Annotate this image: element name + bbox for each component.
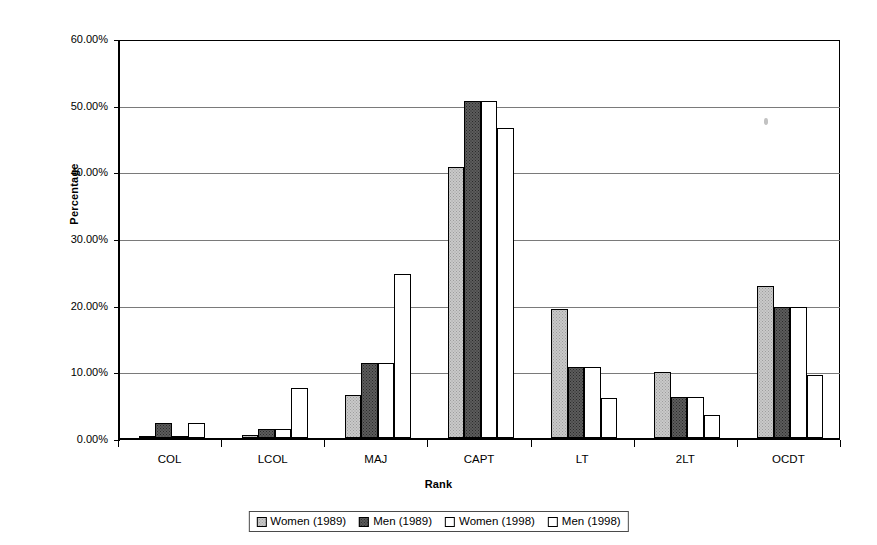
- bar: [551, 309, 568, 438]
- bar: [464, 101, 481, 438]
- legend-swatch-icon: [445, 517, 455, 527]
- legend-label: Men (1989): [373, 515, 432, 528]
- legend-swatch-icon: [548, 517, 558, 527]
- x-tick-mark: [221, 440, 222, 447]
- bar-group: [636, 40, 739, 438]
- x-tick-mark: [737, 440, 738, 447]
- bar: [188, 423, 205, 438]
- bar: [654, 372, 671, 438]
- legend-item[interactable]: Women (1989): [256, 515, 346, 528]
- x-tick-mark: [531, 440, 532, 447]
- bar: [258, 429, 275, 438]
- y-tick-label: 10.00%: [44, 367, 108, 378]
- legend-swatch-icon: [256, 517, 266, 527]
- bar: [172, 436, 189, 438]
- bar: [807, 375, 824, 438]
- x-tick-mark: [118, 440, 119, 447]
- x-tick-mark: [840, 440, 841, 447]
- bar-group: [533, 40, 636, 438]
- bar: [242, 435, 259, 438]
- bar: [704, 415, 721, 438]
- x-tick-label: OCDT: [737, 453, 840, 465]
- bar-group-bars: [429, 40, 532, 438]
- x-tick-mark: [427, 440, 428, 447]
- bar: [448, 167, 465, 438]
- bar: [497, 128, 514, 438]
- bar: [378, 363, 395, 438]
- chart-legend: Women (1989)Men (1989)Women (1998)Men (1…: [248, 511, 628, 532]
- bar-group-bars: [739, 40, 842, 438]
- bar: [291, 388, 308, 438]
- bar: [155, 423, 172, 438]
- legend-item[interactable]: Men (1998): [548, 515, 621, 528]
- bar: [584, 367, 601, 438]
- legend-label: Women (1989): [270, 515, 346, 528]
- bar-group-bars: [223, 40, 326, 438]
- x-tick-mark: [324, 440, 325, 447]
- x-tick-label: CAPT: [427, 453, 530, 465]
- bar-group-bars: [533, 40, 636, 438]
- bar: [774, 307, 791, 438]
- bar: [790, 307, 807, 438]
- bar: [275, 429, 292, 438]
- y-tick-label: 0.00%: [44, 434, 108, 445]
- bar-group-bars: [326, 40, 429, 438]
- bar-group: [739, 40, 842, 438]
- y-tick-label: 30.00%: [44, 234, 108, 245]
- x-tick-label: LT: [531, 453, 634, 465]
- x-tick-label: LCOL: [221, 453, 324, 465]
- bar: [687, 397, 704, 438]
- y-tick-mark: [114, 440, 120, 441]
- bar-group: [326, 40, 429, 438]
- bar-group-bars: [636, 40, 739, 438]
- bar: [481, 101, 498, 438]
- bar: [394, 274, 411, 438]
- bar: [568, 367, 585, 438]
- legend-label: Women (1998): [459, 515, 535, 528]
- x-tick-label: MAJ: [324, 453, 427, 465]
- bar: [139, 436, 156, 438]
- bar-group: [223, 40, 326, 438]
- bar-group-bars: [120, 40, 223, 438]
- bar: [361, 363, 378, 438]
- legend-item[interactable]: Women (1998): [445, 515, 535, 528]
- bar-group: [429, 40, 532, 438]
- bar-chart: Percentage 0.00%10.00%20.00%30.00%40.00%…: [0, 0, 877, 545]
- bar: [345, 395, 362, 438]
- bar-group: [120, 40, 223, 438]
- y-tick-label: 40.00%: [44, 167, 108, 178]
- x-tick-mark: [634, 440, 635, 447]
- bar: [601, 398, 618, 438]
- bar: [757, 286, 774, 438]
- legend-item[interactable]: Men (1989): [359, 515, 432, 528]
- legend-swatch-icon: [359, 517, 369, 527]
- x-tick-label: 2LT: [634, 453, 737, 465]
- scan-artifact-speck: [764, 118, 768, 125]
- legend-label: Men (1998): [562, 515, 621, 528]
- plot-area: [118, 40, 840, 440]
- bar: [671, 397, 688, 438]
- y-tick-label: 20.00%: [44, 301, 108, 312]
- y-tick-label: 60.00%: [44, 34, 108, 45]
- y-tick-label: 50.00%: [44, 101, 108, 112]
- x-axis-title: Rank: [0, 478, 877, 490]
- x-tick-label: COL: [118, 453, 221, 465]
